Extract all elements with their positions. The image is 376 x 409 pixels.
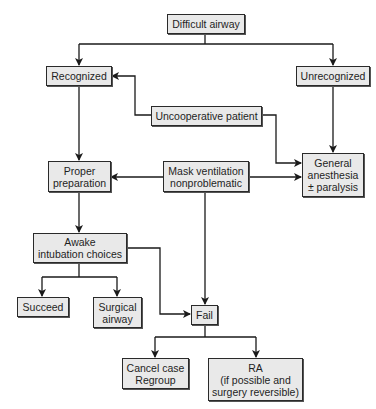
node-recognized: Recognized [46,66,112,86]
connector-lines [0,0,376,409]
node-proper-preparation: Proper preparation [48,161,111,192]
node-surgical-airway: Surgical airway [93,297,142,328]
node-succeed: Succeed [17,297,69,317]
node-mask-ventilation: Mask ventilation nonproblematic [163,161,249,192]
node-fail: Fail [191,305,218,325]
node-uncooperative-patient: Uncooperative patient [151,106,262,126]
node-ra: RA (if possible and surgery reversible) [208,358,303,401]
node-cancel-case: Cancel case Regroup [122,358,189,389]
node-general-anesthesia: General anesthesia ± paralysis [302,153,364,197]
node-unrecognized: Unrecognized [296,66,370,86]
node-awake-intubation: Awake intubation choices [33,233,127,263]
node-difficult-airway: Difficult airway [167,14,245,34]
